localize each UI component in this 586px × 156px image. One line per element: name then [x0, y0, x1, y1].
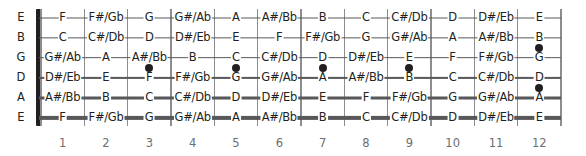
note-s3-f4: B: [188, 52, 198, 64]
inlay-dot-fret-7: [319, 64, 327, 72]
inlay-dot-fret-12: [535, 44, 543, 52]
fret-wire-5: [257, 9, 258, 126]
note-s3-f5: C: [231, 52, 241, 64]
fret-number-10: 10: [445, 138, 460, 150]
note-s1-f7: B: [318, 12, 328, 24]
inlay-dot-fret-12: [535, 84, 543, 92]
fret-wire-10: [474, 9, 475, 126]
note-s5-f8: F: [362, 92, 371, 104]
open-string-label-high-e-string: E: [10, 12, 32, 24]
fret-number-11: 11: [489, 138, 504, 150]
note-s4-f1: D#/Eb: [44, 72, 81, 84]
fret-wire-12: [560, 9, 561, 126]
inlay-dot-fret-9: [405, 64, 413, 72]
fret-wire-11: [517, 9, 518, 126]
note-s2-f8: G: [361, 32, 372, 44]
note-s6-f9: C#/Db: [390, 112, 428, 124]
note-s4-f5: G: [231, 72, 242, 84]
note-s5-f2: B: [101, 92, 111, 104]
fret-number-2: 2: [102, 138, 109, 150]
note-s5-f10: G: [447, 92, 458, 104]
note-s5-f6: D#/Eb: [261, 92, 298, 104]
note-s1-f10: D: [447, 12, 458, 24]
note-s1-f12: E: [535, 12, 544, 24]
note-s5-f3: C: [144, 92, 154, 104]
fret-number-5: 5: [232, 138, 239, 150]
note-s1-f3: G: [144, 12, 155, 24]
note-s5-f1: A#/Bb: [44, 92, 81, 104]
fret-wire-9: [430, 9, 431, 126]
note-s1-f5: A: [231, 12, 241, 24]
note-s6-f12: E: [535, 112, 544, 124]
note-s2-f3: D: [144, 32, 155, 44]
open-string-label-b-string: B: [10, 32, 32, 44]
note-s4-f11: C#/Db: [477, 72, 515, 84]
note-s5-f5: D: [231, 92, 242, 104]
note-s3-f6: C#/Db: [260, 52, 298, 64]
note-s6-f4: G#/Ab: [174, 112, 212, 124]
open-string-label-a-string: A: [10, 92, 32, 104]
note-s5-f7: E: [318, 92, 327, 104]
note-s2-f7: F#/Gb: [304, 32, 341, 44]
open-string-label-low-e-string: E: [10, 112, 32, 124]
note-s3-f1: G#/Ab: [44, 52, 82, 64]
note-s4-f2: E: [101, 72, 110, 84]
fret-wire-8: [387, 9, 388, 126]
note-s2-f12: B: [534, 32, 544, 44]
fretboard-diagram: EBGDAEFF#/GbGG#/AbAA#/BbBCC#/DbDD#/EbECC…: [0, 0, 586, 156]
note-s4-f12: D: [534, 72, 545, 84]
note-s4-f9: B: [404, 72, 414, 84]
note-s5-f12: A: [534, 92, 544, 104]
fret-number-1: 1: [59, 138, 66, 150]
note-s2-f11: A#/Bb: [477, 32, 514, 44]
note-s1-f8: C: [361, 12, 371, 24]
note-s3-f12: G: [534, 52, 545, 64]
inlay-dot-fret-3: [145, 64, 153, 72]
fret-wire-1: [84, 9, 85, 126]
note-s4-f4: F#/Gb: [174, 72, 211, 84]
inlay-dot-fret-5: [232, 64, 240, 72]
note-s6-f3: G: [144, 112, 155, 124]
note-s2-f6: F: [275, 32, 284, 44]
fret-wire-3: [170, 9, 171, 126]
note-s5-f9: F#/Gb: [391, 92, 428, 104]
note-s6-f8: C: [361, 112, 371, 124]
note-s6-f5: A: [231, 112, 241, 124]
note-s1-f9: C#/Db: [390, 12, 428, 24]
note-s3-f11: F#/Gb: [478, 52, 515, 64]
fret-number-4: 4: [189, 138, 196, 150]
note-s3-f9: E: [405, 52, 414, 64]
fret-number-7: 7: [319, 138, 326, 150]
note-s4-f3: F: [145, 72, 154, 84]
fret-number-9: 9: [406, 138, 413, 150]
fret-wire-4: [214, 9, 215, 126]
note-s2-f4: D#/Eb: [174, 32, 211, 44]
note-s1-f1: F: [58, 12, 67, 24]
note-s4-f10: C: [448, 72, 458, 84]
note-s6-f2: F#/Gb: [88, 112, 125, 124]
fret-number-8: 8: [362, 138, 369, 150]
note-s6-f7: B: [318, 112, 328, 124]
note-s1-f2: F#/Gb: [88, 12, 125, 24]
note-s5-f11: G#/Ab: [477, 92, 515, 104]
note-s2-f9: G#/Ab: [390, 32, 428, 44]
note-s6-f6: A#/Bb: [261, 112, 298, 124]
fret-number-3: 3: [146, 138, 153, 150]
open-string-label-g-string: G: [10, 52, 32, 64]
note-s3-f3: A#/Bb: [131, 52, 168, 64]
fret-number-12: 12: [532, 138, 547, 150]
note-s5-f4: C#/Db: [174, 92, 212, 104]
note-s1-f6: A#/Bb: [261, 12, 298, 24]
note-s3-f7: D: [317, 52, 328, 64]
fret-number-6: 6: [276, 138, 283, 150]
note-s1-f4: G#/Ab: [174, 12, 212, 24]
fret-wire-2: [127, 9, 128, 126]
note-s4-f6: G#/Ab: [260, 72, 298, 84]
note-s1-f11: D#/Eb: [477, 12, 514, 24]
fret-wire-0: [40, 9, 41, 126]
note-s4-f8: A#/Bb: [347, 72, 384, 84]
note-s2-f10: A: [448, 32, 458, 44]
note-s4-f7: A: [318, 72, 328, 84]
note-s3-f10: F: [448, 52, 457, 64]
note-s2-f5: E: [231, 32, 240, 44]
